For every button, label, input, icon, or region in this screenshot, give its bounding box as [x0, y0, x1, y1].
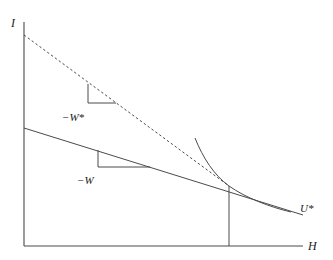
y-axis-label: I: [10, 16, 16, 30]
x-axis-label: H: [307, 239, 318, 253]
wage-slope-label: −W: [77, 174, 94, 186]
shadow-budget-line: [24, 35, 229, 186]
indifference-curve-figure: I H U* −W* −W: [0, 0, 333, 260]
budget-line: [24, 128, 303, 215]
indifference-curve: [195, 138, 291, 212]
utility-curve-label: U*: [300, 202, 314, 214]
diagram-canvas: I H U* −W* −W: [0, 0, 333, 260]
shadow-wage-slope-label: −W*: [62, 111, 85, 123]
slope-triangle-shadow-wage: [88, 84, 116, 103]
